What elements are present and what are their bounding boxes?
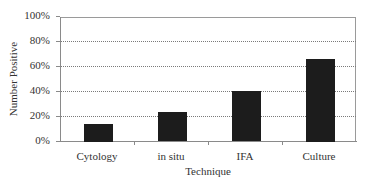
x-tick bbox=[208, 141, 209, 145]
y-tick bbox=[56, 66, 60, 67]
y-axis-title: Number Positive bbox=[7, 42, 19, 116]
bar-cytology bbox=[84, 124, 113, 142]
y-axis bbox=[60, 17, 61, 142]
x-category-label: Culture bbox=[282, 150, 356, 162]
x-tick bbox=[134, 141, 135, 145]
y-tick bbox=[56, 41, 60, 42]
y-tick bbox=[56, 16, 60, 17]
x-category-label: Cytology bbox=[60, 150, 134, 162]
y-tick-label: 0% bbox=[35, 135, 50, 146]
y-tick bbox=[56, 91, 60, 92]
bar-ifa bbox=[232, 91, 261, 141]
y-tick-label: 80% bbox=[30, 35, 50, 46]
x-category-label: in situ bbox=[134, 150, 208, 162]
y-tick-label: 20% bbox=[30, 110, 50, 121]
x-axis-title: Technique bbox=[60, 165, 356, 177]
y-tick bbox=[56, 141, 60, 142]
bar-culture bbox=[306, 59, 335, 142]
y-tick bbox=[56, 116, 60, 117]
y-tick-label: 60% bbox=[30, 60, 50, 71]
gridline bbox=[61, 41, 356, 42]
bar-chart: 0%20%40%60%80%100% Cytologyin situIFACul… bbox=[0, 0, 366, 186]
y-tick-label: 100% bbox=[24, 10, 50, 21]
bar-in-situ bbox=[158, 112, 187, 141]
y-tick-label: 40% bbox=[30, 85, 50, 96]
x-tick bbox=[282, 141, 283, 145]
x-category-label: IFA bbox=[208, 150, 282, 162]
